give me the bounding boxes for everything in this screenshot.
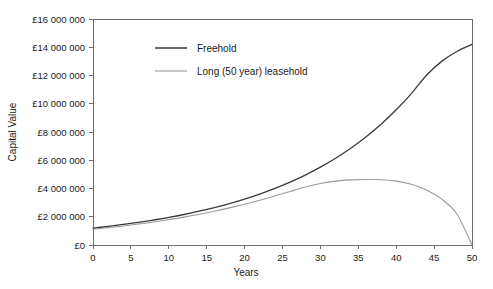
x-tick-label: 50	[467, 252, 478, 263]
y-tick-label: £12 000 000	[32, 70, 85, 81]
legend-label-2: Long (50 year) leasehold	[197, 66, 308, 77]
capital-value-line-chart: £0£2 000 000£4 000 000£6 000 000£8 000 0…	[0, 0, 493, 289]
x-tick-label: 30	[315, 252, 326, 263]
x-axis-ticks: 05101520253035404550	[90, 245, 477, 263]
y-tick-label: £8 000 000	[37, 127, 85, 138]
x-tick-label: 45	[429, 252, 440, 263]
y-tick-label: £6 000 000	[37, 155, 85, 166]
y-axis-ticks: £0£2 000 000£4 000 000£6 000 000£8 000 0…	[32, 14, 93, 251]
x-tick-label: 10	[164, 252, 175, 263]
x-tick-label: 25	[277, 252, 288, 263]
y-tick-label: £16 000 000	[32, 14, 85, 25]
x-tick-label: 40	[391, 252, 402, 263]
y-tick-label: £2 000 000	[37, 211, 85, 222]
x-tick-label: 20	[239, 252, 250, 263]
y-tick-label: £0	[74, 240, 85, 251]
y-tick-label: £10 000 000	[32, 98, 85, 109]
x-tick-label: 35	[353, 252, 364, 263]
x-axis-title: Years	[233, 267, 258, 278]
y-axis-title: Capital Value	[7, 102, 18, 161]
x-tick-label: 15	[201, 252, 212, 263]
chart-legend: FreeholdLong (50 year) leasehold	[155, 43, 308, 77]
legend-label-1: Freehold	[197, 43, 236, 54]
x-tick-label: 0	[90, 252, 95, 263]
series-line-long-50-year-leasehold	[93, 179, 472, 245]
chart-container: £0£2 000 000£4 000 000£6 000 000£8 000 0…	[0, 0, 493, 289]
plot-frame	[93, 19, 472, 245]
x-tick-label: 5	[128, 252, 133, 263]
y-tick-label: £14 000 000	[32, 42, 85, 53]
y-tick-label: £4 000 000	[37, 183, 85, 194]
